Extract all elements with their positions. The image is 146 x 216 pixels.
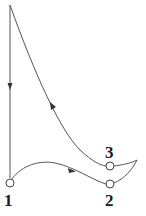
cycle-diagram: 1 2 3 — [0, 0, 146, 216]
arrow-down-icon — [8, 83, 13, 90]
descending-curve — [10, 5, 106, 166]
node-2-circle — [106, 180, 114, 188]
bottom-curve — [12, 162, 106, 184]
node-1-label: 1 — [4, 191, 13, 210]
node-2-label: 2 — [105, 191, 114, 210]
node-3-label: 3 — [105, 143, 114, 162]
node-1-circle — [6, 179, 14, 187]
node-3-circle — [106, 162, 114, 170]
cusp-curve — [114, 160, 137, 183]
